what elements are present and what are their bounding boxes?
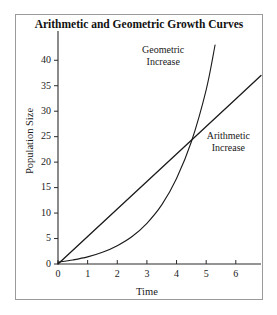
x-tick-label: 3 <box>144 268 149 279</box>
y-tick-label: 40 <box>41 54 51 65</box>
geometric-annotation-line2: Increase <box>147 56 181 67</box>
geometric-increase-curve <box>58 45 215 262</box>
geometric-increase-annotation: Geometric Increase <box>142 44 185 67</box>
x-tick-labels: 0123456 <box>56 268 239 279</box>
x-tick-label: 0 <box>56 268 61 279</box>
arithmetic-increase-annotation: Arithmetic Increase <box>207 130 251 153</box>
figure-frame: Arithmetic and Geometric Growth Curves 0… <box>15 14 263 300</box>
y-tick-labels: 0510152025303540 <box>41 54 51 269</box>
x-tick-label: 4 <box>174 268 179 279</box>
x-tick-label: 1 <box>85 268 90 279</box>
geometric-annotation-line1: Geometric <box>142 44 185 55</box>
arithmetic-annotation-line1: Arithmetic <box>207 130 251 141</box>
x-axis: 0123456 Time <box>56 260 262 297</box>
x-tick-label: 5 <box>204 268 209 279</box>
y-tick-label: 25 <box>41 130 51 141</box>
y-tick-label: 10 <box>41 207 51 218</box>
chart-title: Arithmetic and Geometric Growth Curves <box>35 18 244 30</box>
arithmetic-increase-curve <box>58 76 261 264</box>
y-tick-label: 20 <box>41 156 51 167</box>
x-axis-title: Time <box>136 286 158 297</box>
y-tick-label: 0 <box>46 258 51 269</box>
growth-curves-chart: Arithmetic and Geometric Growth Curves 0… <box>16 15 262 299</box>
y-tick-label: 15 <box>41 181 51 192</box>
y-tick-marks <box>54 60 58 264</box>
x-tick-label: 6 <box>233 268 238 279</box>
y-axis: 0510152025303540 Population Size <box>24 31 58 269</box>
x-tick-marks <box>58 260 236 264</box>
y-axis-title: Population Size <box>24 108 35 175</box>
x-tick-label: 2 <box>115 268 120 279</box>
y-tick-label: 35 <box>41 80 51 91</box>
arithmetic-annotation-line2: Increase <box>212 142 246 153</box>
y-tick-label: 30 <box>41 105 51 116</box>
y-tick-label: 5 <box>46 232 51 243</box>
